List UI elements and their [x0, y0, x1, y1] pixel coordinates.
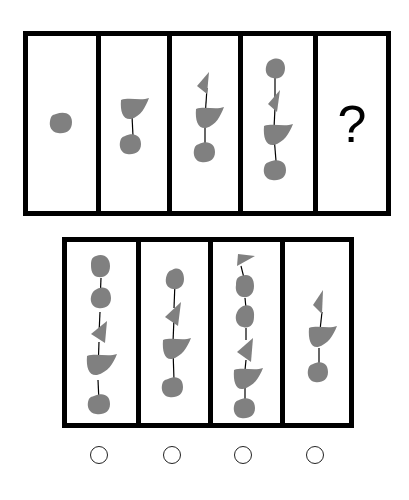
- shape-stack: [67, 242, 136, 423]
- options-box: [62, 237, 354, 428]
- blob-shape: [88, 394, 110, 414]
- blob-shape: [236, 305, 254, 327]
- blob-shape: [308, 362, 328, 382]
- leaf-shape: [264, 124, 293, 145]
- shape-stack: [213, 242, 280, 423]
- blob-shape: [266, 59, 285, 79]
- shape-stack: [141, 242, 208, 423]
- sequence-panel-2: [101, 36, 167, 211]
- sequence-panel-1: [28, 36, 96, 211]
- option-radio-3[interactable]: [234, 446, 252, 464]
- leaf-shape: [121, 98, 149, 119]
- blob-shape: [194, 142, 215, 162]
- blob-shape: [91, 287, 111, 308]
- option-panel-1[interactable]: [67, 242, 136, 423]
- sequence-panel-3: [172, 36, 238, 211]
- question-mark: ?: [318, 94, 386, 154]
- shape-stack: [101, 36, 167, 211]
- sequence-panel-5-unknown: ?: [318, 36, 386, 211]
- triangle-shape: [313, 290, 323, 314]
- blob-shape: [166, 269, 184, 290]
- leaf-shape: [163, 338, 191, 359]
- triangle-shape: [197, 72, 209, 94]
- blob-shape: [50, 113, 72, 133]
- option-radio-2[interactable]: [163, 446, 181, 464]
- option-radio-1[interactable]: [90, 446, 108, 464]
- blob-shape: [236, 275, 254, 297]
- option-panel-2[interactable]: [141, 242, 208, 423]
- leaf-shape: [87, 354, 117, 375]
- option-panel-4[interactable]: [285, 242, 349, 423]
- sequence-panel-4: [243, 36, 313, 211]
- triangle-shape: [165, 302, 181, 326]
- leaf-shape: [196, 107, 224, 128]
- triangle-shape: [268, 90, 280, 112]
- blob-shape: [91, 255, 110, 277]
- sequence-box: ?: [23, 31, 391, 216]
- option-radio-4[interactable]: [306, 446, 324, 464]
- triangle-shape: [237, 338, 253, 362]
- blob-shape: [120, 134, 141, 154]
- shape-stack: [285, 242, 349, 423]
- leaf-shape: [309, 326, 337, 347]
- shape-stack: [243, 36, 313, 211]
- option-panel-3[interactable]: [213, 242, 280, 423]
- triangle-shape: [237, 254, 255, 266]
- leaf-shape: [234, 368, 263, 389]
- blob-shape: [234, 398, 255, 418]
- shape-stack: [28, 36, 96, 211]
- shape-stack: [172, 36, 238, 211]
- blob-shape: [264, 160, 286, 180]
- blob-shape: [162, 377, 183, 397]
